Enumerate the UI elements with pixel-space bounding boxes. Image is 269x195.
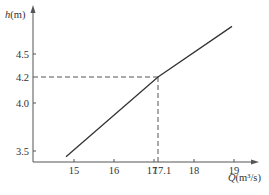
- x-tick-label: 17.1: [153, 165, 171, 176]
- guide-lines: [33, 77, 158, 162]
- y-tick-label: 3.5: [16, 146, 29, 157]
- y-axis-unit: (m): [10, 9, 26, 21]
- series-line: [66, 26, 232, 156]
- x-tick-label: 15: [69, 165, 80, 176]
- y-tick-label: 4.0: [16, 98, 29, 109]
- y-tick-label: 4.5: [16, 49, 29, 60]
- x-axis-label: Q(m³/s): [228, 172, 261, 184]
- axes: [31, 5, 260, 165]
- h-q-chart: 15161717.11819 3.54.04.24.5 h(m) Q(m³/s): [0, 0, 269, 195]
- y-tick-label: 4.2: [16, 72, 29, 83]
- y-axis-label: h(m): [5, 9, 26, 21]
- x-axis-arrow-icon: [251, 160, 259, 165]
- series: [66, 26, 232, 156]
- x-tick-label: 16: [109, 165, 120, 176]
- x-tick-label: 18: [189, 165, 200, 176]
- y-axis-arrow-icon: [31, 5, 36, 13]
- x-axis-unit: (m³/s): [236, 172, 262, 184]
